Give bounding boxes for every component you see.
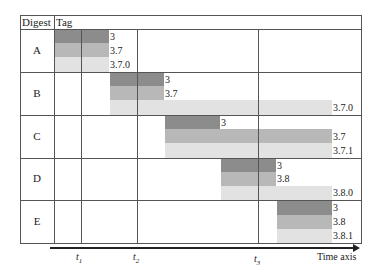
- tag-label: 3.8: [333, 216, 346, 228]
- row-divider: [20, 158, 362, 159]
- bar-d-3-8-0: [221, 186, 332, 200]
- tick-sub: 2: [136, 257, 140, 265]
- tag-label: 3.7.0: [110, 59, 130, 71]
- bar-a-3-7: [55, 43, 109, 57]
- tick-t3: t3: [254, 253, 260, 267]
- bar-e-3-8: [277, 215, 332, 229]
- tick-t1: t1: [76, 251, 82, 265]
- time-axis-line: [50, 247, 354, 249]
- bar-d-3: [221, 159, 276, 172]
- tag-label: 3: [221, 117, 226, 129]
- row-divider: [20, 72, 362, 73]
- tag-label: 3.7: [333, 131, 346, 143]
- tick-sub: 1: [79, 257, 83, 265]
- tag-header: Tag: [56, 15, 72, 29]
- bar-e-3-8-1: [277, 229, 332, 243]
- tag-label: 3.7: [165, 88, 178, 100]
- tag-label: 3.8.0: [333, 187, 353, 199]
- row-label-a: A: [20, 44, 54, 56]
- table-bottom-border: [20, 243, 362, 244]
- bar-d-3-8: [221, 172, 276, 186]
- tag-label: 3: [277, 160, 282, 172]
- row-label-d: D: [20, 172, 54, 184]
- tick-t2: t2: [133, 251, 139, 265]
- bar-a-3: [55, 30, 109, 43]
- tag-label: 3.7.0: [333, 102, 353, 114]
- tag-label: 3: [333, 202, 338, 214]
- table-right-border: [361, 15, 362, 244]
- bar-e-3: [277, 201, 332, 215]
- row-label-e: E: [20, 215, 54, 227]
- bar-c-3-7: [165, 129, 332, 143]
- bar-c-3-7-1: [165, 143, 332, 158]
- time-marker-t1: [81, 29, 82, 244]
- tag-label: 3.8: [277, 173, 290, 185]
- tag-label: 3.7.1: [333, 145, 353, 157]
- bar-a-3-7-0: [55, 57, 109, 72]
- tick-sub: 3: [257, 259, 261, 267]
- time-marker-t2: [137, 29, 138, 244]
- tag-label: 3: [165, 74, 170, 86]
- digest-header: Digest: [22, 15, 51, 29]
- time-marker-t3: [258, 29, 259, 244]
- row-label-b: B: [20, 87, 54, 99]
- bar-c-3: [165, 116, 220, 129]
- row-label-c: C: [20, 130, 54, 142]
- time-axis-label: Time axis: [317, 251, 356, 263]
- bar-b-3-7-0: [110, 100, 332, 115]
- tag-label: 3.7: [110, 45, 123, 57]
- tag-label: 3: [110, 31, 115, 43]
- tag-label: 3.8.1: [333, 230, 353, 242]
